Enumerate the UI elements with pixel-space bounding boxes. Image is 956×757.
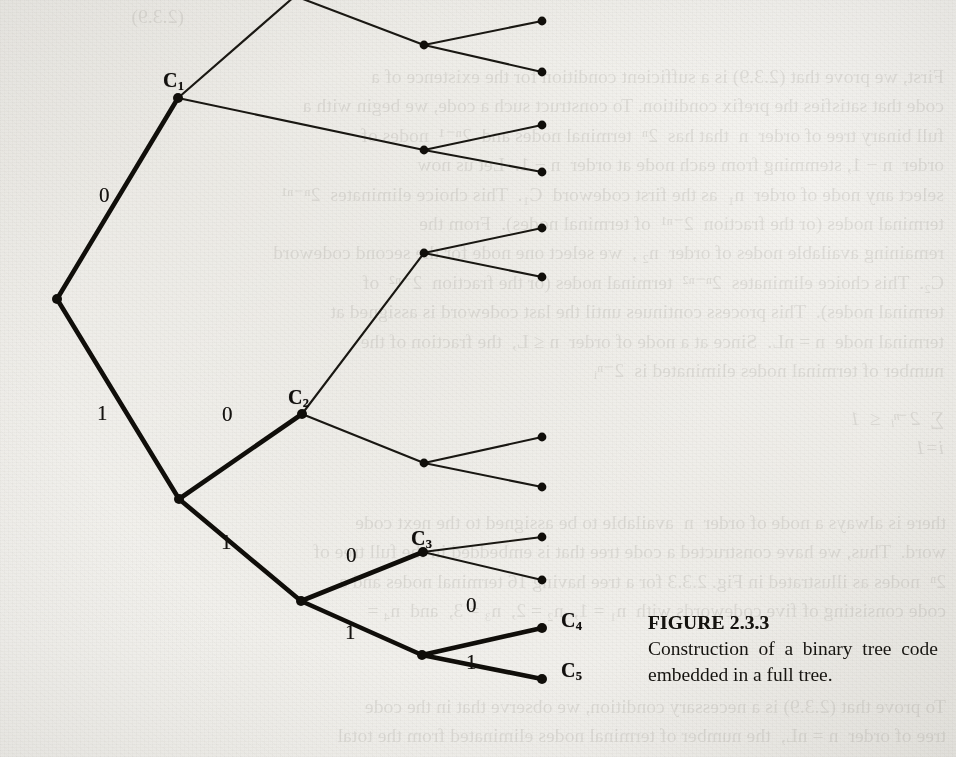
codeword-subscript: 3	[426, 537, 432, 551]
tree-node-terminal	[538, 533, 547, 542]
full-tree-edge	[424, 253, 542, 277]
full-tree-edge	[302, 414, 424, 463]
codeword-label-c5: C5	[561, 660, 582, 680]
tree-node-internal	[174, 494, 184, 504]
full-tree-edge	[424, 463, 542, 487]
full-tree-edge	[423, 552, 542, 580]
full-tree-edge	[424, 125, 542, 150]
code-tree-edge	[57, 299, 179, 499]
tree-node-terminal	[538, 17, 547, 26]
tree-node-terminal	[538, 168, 547, 177]
tree-node-terminal	[538, 68, 547, 77]
codeword-label-c4: C4	[561, 610, 582, 630]
full-tree-edge	[178, 0, 295, 98]
full-tree-thin-edges	[178, 0, 542, 580]
full-tree-edge	[424, 437, 542, 463]
tree-node-terminal	[538, 433, 547, 442]
codeword-subscript: 4	[576, 619, 582, 633]
codeword-label-c2: C2	[288, 387, 309, 407]
tree-node-internal	[420, 41, 429, 50]
full-tree-edge	[178, 98, 424, 150]
tree-node-internal	[52, 294, 62, 304]
codeword-subscript: 5	[576, 669, 582, 683]
tree-node-codeword	[297, 409, 307, 419]
code-tree-edge	[301, 552, 423, 601]
full-tree-edge	[302, 253, 424, 414]
code-tree-edge	[179, 499, 301, 601]
tree-node-internal	[296, 596, 306, 606]
code-tree-edge	[422, 628, 542, 655]
codeword-label-c3: C3	[411, 528, 432, 548]
tree-node-terminal	[538, 576, 547, 585]
scanned-page: (2.3.9)First, we prove that (2.3.9) is a…	[0, 0, 956, 757]
tree-node-terminal	[538, 121, 547, 130]
codeword-subscript: 2	[303, 396, 309, 410]
tree-node-internal	[420, 249, 429, 258]
full-tree-edge	[423, 537, 542, 552]
tree-node-terminal	[537, 674, 547, 684]
code-tree-edge	[422, 655, 542, 679]
full-tree-edge	[424, 150, 542, 172]
tree-node-internal	[420, 146, 429, 155]
code-tree-edge	[301, 601, 422, 655]
tree-node-terminal	[538, 483, 547, 492]
codeword-subscript: 1	[178, 79, 184, 93]
full-tree-edge	[424, 21, 542, 45]
code-tree-edge	[57, 98, 178, 299]
figure-caption-text: Construction of a binary tree code embed…	[648, 636, 938, 687]
tree-node-codeword	[173, 93, 183, 103]
code-tree-edge	[179, 414, 302, 499]
figure-caption: FIGURE 2.3.3 Construction of a binary tr…	[648, 612, 938, 687]
full-tree-edge	[295, 0, 424, 45]
figure-number: FIGURE 2.3.3	[648, 612, 938, 634]
tree-node-internal	[417, 650, 427, 660]
full-tree-edge	[424, 228, 542, 253]
tree-node-terminal	[537, 623, 547, 633]
full-tree-edge	[424, 45, 542, 72]
tree-node-terminal	[538, 224, 547, 233]
codeword-label-c1: C1	[163, 70, 184, 90]
tree-nodes	[52, 17, 547, 684]
tree-node-internal	[420, 459, 429, 468]
tree-node-terminal	[538, 273, 547, 282]
